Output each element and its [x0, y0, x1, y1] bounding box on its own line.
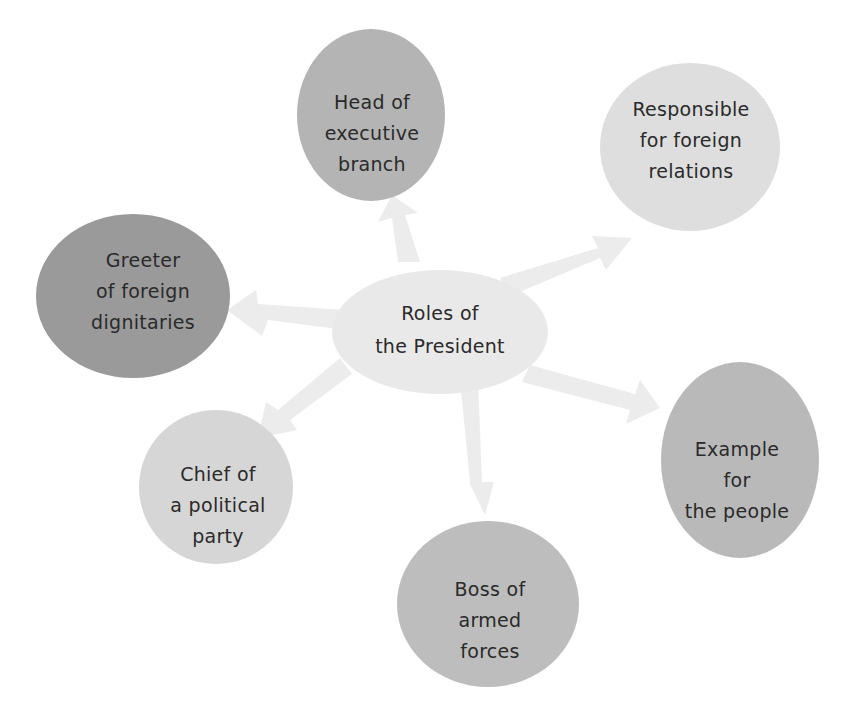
arrow-to-example-for-the-people — [522, 365, 660, 424]
node-label-line: Head of — [325, 87, 420, 118]
node-label-line: Greeter — [91, 245, 195, 276]
node-label-line: a political — [170, 490, 265, 521]
node-label-line: relations — [632, 156, 749, 187]
node-label-line: Example — [685, 434, 790, 465]
node-label-example-for-the-people: Example for the people — [685, 434, 790, 527]
node-label-responsible-for-foreign-relations: Responsible for foreign relations — [632, 94, 749, 187]
center-node-label: Roles of the President — [375, 297, 505, 363]
node-label-boss-of-armed-forces: Boss of armed forces — [455, 574, 526, 667]
arrow-to-responsible-for-foreign-relations — [500, 236, 632, 296]
node-label-greeter-of-foreign-dignitaries: Greeter of foreign dignitaries — [91, 245, 195, 338]
arrow-to-head-of-executive-branch — [378, 195, 420, 262]
node-label-line: for — [685, 465, 790, 496]
node-label-line: of foreign — [91, 276, 195, 307]
node-label-line: executive — [325, 118, 420, 149]
roles-of-president-diagram: Roles of the President Head of executive… — [0, 0, 842, 710]
node-label-head-of-executive-branch: Head of executive branch — [325, 87, 420, 180]
center-label-line-2: the President — [375, 330, 505, 363]
node-label-line: party — [170, 521, 265, 552]
node-label-chief-of-a-political-party: Chief of a political party — [170, 459, 265, 552]
node-label-line: the people — [685, 496, 790, 527]
node-label-line: dignitaries — [91, 307, 195, 338]
arrow-to-greeter-of-foreign-dignitaries — [227, 290, 345, 336]
arrow-to-chief-of-a-political-party — [258, 358, 352, 438]
node-label-line: forces — [455, 636, 526, 667]
node-label-line: Chief of — [170, 459, 265, 490]
node-label-line: branch — [325, 149, 420, 180]
node-label-line: armed — [455, 605, 526, 636]
node-label-line: for foreign — [632, 125, 749, 156]
center-label-line-1: Roles of — [375, 297, 505, 330]
node-label-line: Responsible — [632, 94, 749, 125]
arrow-to-boss-of-armed-forces — [460, 380, 494, 515]
node-label-line: Boss of — [455, 574, 526, 605]
